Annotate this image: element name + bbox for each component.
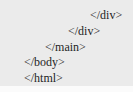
- code-snippet: </div> </div> </main> </body> </html>: [0, 0, 133, 86]
- page-bottom-margin: [0, 86, 133, 92]
- code-line-close-div-inner: </div>: [90, 8, 122, 22]
- code-line-close-html: </html>: [24, 71, 63, 85]
- code-line-close-body: </body>: [24, 55, 65, 69]
- code-line-close-div-outer: </div>: [68, 24, 100, 38]
- code-line-close-main: </main>: [45, 40, 86, 54]
